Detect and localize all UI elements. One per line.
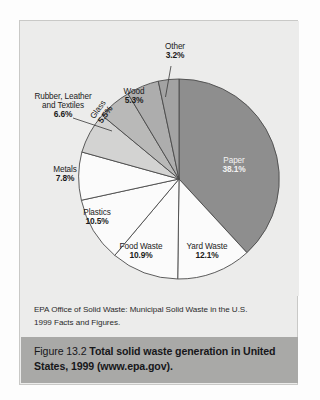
figure-caption-band: Figure 13.2 Total solid waste generation… [21,337,298,383]
figure-caption: Figure 13.2 Total solid waste generation… [34,344,298,374]
pie-label-food-waste-percent: 10.9% [108,251,174,260]
pie-label-rubber-leather-textiles: Rubber, Leather and Textiles 6.6% [15,92,111,120]
pie-label-yard-waste-percent: 12.1% [176,251,238,260]
pie-chart-area: Other 3.2% Wood 5.3% Glass 5.5% Rubber, … [20,21,299,296]
page-background: Other 3.2% Wood 5.3% Glass 5.5% Rubber, … [0,0,320,400]
pie-label-metals: Metals 7.8% [38,165,92,184]
figure-number: Figure 13.2 [34,345,87,357]
pie-label-paper-percent: 38.1% [206,165,262,174]
pie-label-other-percent: 3.2% [148,51,202,60]
pie-label-other: Other 3.2% [148,42,202,61]
pie-label-rubber-name-line-1: Rubber, Leather [15,92,111,101]
pie-label-paper: Paper 38.1% [206,156,262,175]
figure-panel: Other 3.2% Wood 5.3% Glass 5.5% Rubber, … [19,20,298,385]
source-note-line-1: EPA Office of Solid Waste: Municipal Sol… [34,304,286,317]
pie-label-food-waste: Food Waste 10.9% [108,242,174,261]
pie-label-yard-waste: Yard Waste 12.1% [176,242,238,261]
pie-label-plastics-percent: 10.5% [70,217,124,226]
pie-label-rubber-percent: 6.6% [15,110,111,119]
source-note-line-2: 1999 Facts and Figures. [34,317,286,330]
source-note: EPA Office of Solid Waste: Municipal Sol… [34,304,286,329]
pie-label-plastics: Plastics 10.5% [70,208,124,227]
pie-label-metals-percent: 7.8% [38,174,92,183]
